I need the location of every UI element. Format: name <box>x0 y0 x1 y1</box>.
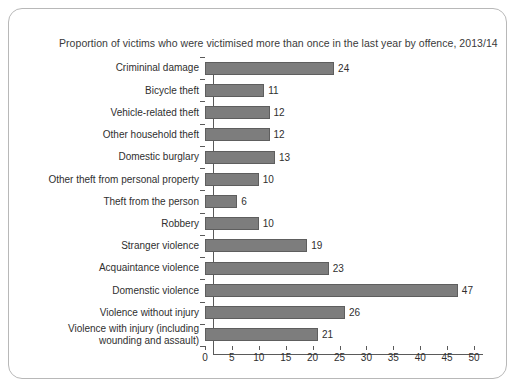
category-label: Crimininal damage <box>9 62 199 74</box>
bar-value-label: 6 <box>241 195 247 208</box>
category-label: Stranger violence <box>9 240 199 252</box>
bar-value-label: 23 <box>333 262 344 275</box>
x-axis-tick-label: 15 <box>274 352 298 363</box>
y-axis-tick <box>200 302 205 303</box>
bar-value-label: 12 <box>274 106 285 119</box>
bar <box>205 195 237 208</box>
x-axis-tick-label: 45 <box>435 352 459 363</box>
bar-value-label: 11 <box>268 84 278 97</box>
category-label: Vehicle-related theft <box>9 107 199 119</box>
category-label: Domestic burglary <box>9 151 199 163</box>
x-axis-tick <box>474 346 475 350</box>
bar-value-label: 47 <box>462 284 473 297</box>
x-axis-tick <box>420 346 421 350</box>
bar-value-label: 12 <box>274 128 285 141</box>
bar <box>205 217 259 230</box>
chart-title: Proportion of victims who were victimise… <box>59 37 489 49</box>
category-label: Bicycle theft <box>9 85 199 97</box>
x-axis-tick <box>259 346 260 350</box>
bar <box>205 84 264 97</box>
bar <box>205 284 458 297</box>
y-axis-tick <box>200 124 205 125</box>
category-label: Domenstic violence <box>9 285 199 297</box>
x-axis-tick <box>232 346 233 350</box>
bar-value-label: 10 <box>263 217 274 230</box>
figure-frame: Proportion of victims who were victimise… <box>8 8 507 379</box>
y-axis-tick <box>200 190 205 191</box>
x-axis-tick-label: 30 <box>354 352 378 363</box>
x-axis-tick-label: 25 <box>328 352 352 363</box>
bar-value-label: 10 <box>263 173 274 186</box>
x-axis-tick-label: 20 <box>301 352 325 363</box>
y-axis-tick <box>200 146 205 147</box>
category-label: Violence without injury <box>9 307 199 319</box>
category-label: Theft from the person <box>9 196 199 208</box>
bar <box>205 151 275 164</box>
x-axis-tick-label: 5 <box>220 352 244 363</box>
x-axis-tick <box>447 346 448 350</box>
x-axis-tick <box>366 346 367 350</box>
bar-value-label: 26 <box>349 306 360 319</box>
bar <box>205 262 329 275</box>
x-axis-tick <box>286 346 287 350</box>
category-label: Robbery <box>9 218 199 230</box>
bar <box>205 328 318 341</box>
bar-value-label: 13 <box>279 151 290 164</box>
bar <box>205 239 307 252</box>
category-label: Violence with injury (including wounding… <box>9 323 199 346</box>
x-axis-tick <box>205 346 206 350</box>
y-axis-tick <box>200 101 205 102</box>
bar-value-label: 19 <box>311 239 322 252</box>
y-axis-tick <box>200 257 205 258</box>
y-axis-tick <box>200 346 205 347</box>
y-axis-tick <box>200 57 205 58</box>
x-axis-tick-label: 50 <box>462 352 486 363</box>
category-label: Other household theft <box>9 129 199 141</box>
bar <box>205 306 345 319</box>
y-axis-tick <box>200 213 205 214</box>
bar <box>205 62 334 75</box>
bar <box>205 106 270 119</box>
x-axis-tick <box>393 346 394 350</box>
y-axis-tick <box>200 79 205 80</box>
x-axis-tick <box>340 346 341 350</box>
bar-value-label: 21 <box>322 328 333 341</box>
category-label: Acquaintance violence <box>9 262 199 274</box>
bar <box>205 128 270 141</box>
x-axis-tick-label: 0 <box>193 352 217 363</box>
x-axis-tick-label: 10 <box>247 352 271 363</box>
y-axis-tick <box>200 324 205 325</box>
y-axis-tick <box>200 235 205 236</box>
y-axis-tick <box>200 168 205 169</box>
x-axis-tick-label: 35 <box>381 352 405 363</box>
y-axis-tick <box>200 279 205 280</box>
x-axis-tick <box>313 346 314 350</box>
category-label: Other theft from personal property <box>9 174 199 186</box>
bar <box>205 173 259 186</box>
x-axis-tick-label: 40 <box>408 352 432 363</box>
bar-value-label: 24 <box>338 62 349 75</box>
